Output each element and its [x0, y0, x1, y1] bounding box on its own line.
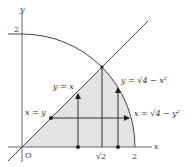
dot-axis-1 [76, 145, 80, 149]
tick-x-sqrt2: √2 [96, 152, 106, 161]
tick-x-2: 2 [132, 152, 137, 161]
origin-label: O [25, 151, 32, 160]
tick-y-2: 2 [14, 25, 19, 34]
dot-intersection [100, 65, 103, 68]
diagram-canvas: y x O 2 √2 2 y = x x = y y = √4 − x² x =… [0, 0, 195, 167]
dot-x-eq-y [49, 116, 53, 120]
dot-axis-2 [116, 145, 120, 149]
y-axis-label: y [19, 5, 25, 14]
x-axis-label: x [154, 142, 159, 151]
label-y-eq-x: y = x [52, 82, 74, 91]
label-x-eq-y: x = y [25, 108, 46, 117]
label-x-eq-sqrt: x = √4 − y² [134, 109, 180, 118]
label-y-eq-sqrt: y = √4 − x² [120, 76, 167, 85]
